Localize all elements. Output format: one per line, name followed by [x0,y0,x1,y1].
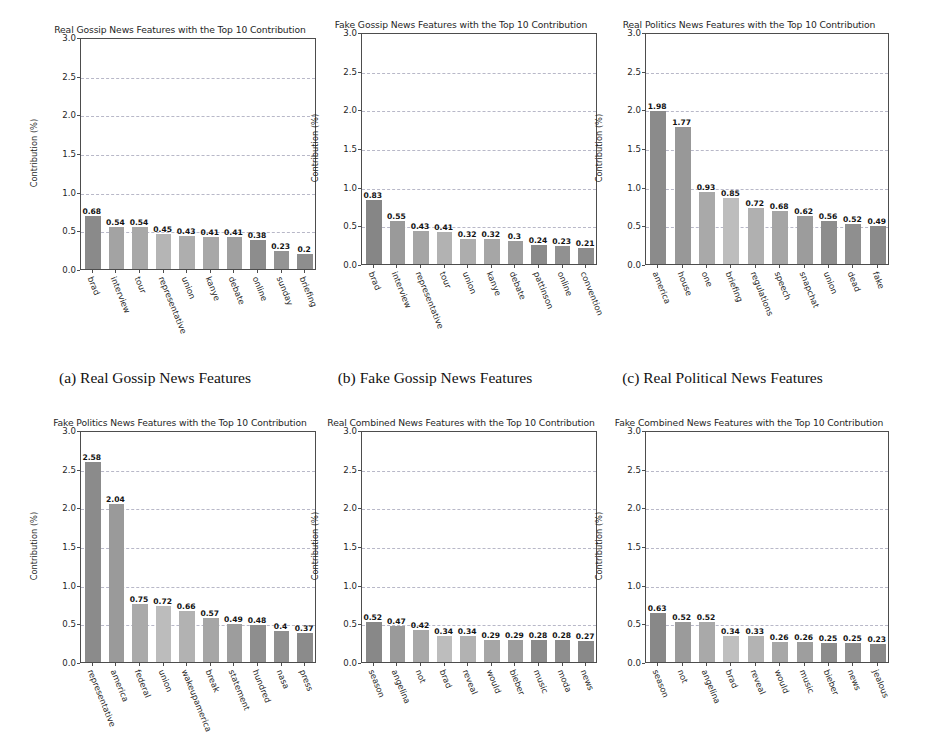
y-tick-mark [642,624,645,625]
bar-value-label: 0.32 [454,230,480,239]
y-tick-mark [358,586,361,587]
bar [85,462,101,662]
bar-value-label: 0.54 [102,218,128,227]
bar-value-label: 0.27 [572,632,598,641]
bar [460,239,476,264]
x-tick-label: jealous [871,668,880,672]
y-tick-label: 3.0 [52,426,76,436]
x-tick-mark [877,265,878,268]
x-tick-label: statement [227,668,236,672]
y-tick-mark [77,115,80,116]
bar [723,636,739,662]
chart-title: Real Combined News Features with the Top… [317,417,605,428]
y-tick-label: 0.0 [617,260,641,270]
y-tick-label: 1.5 [333,144,357,154]
y-axis-label: Contribution (%) [594,98,604,198]
y-tick-mark [77,231,80,232]
x-tick-mark [657,265,658,268]
figure-grid: Real Gossip News Features with the Top 1… [0,0,930,739]
y-tick-label: 0.0 [52,658,76,668]
x-tick-mark [538,265,539,268]
bar-value-label: 0.57 [197,609,223,618]
bar [650,111,666,264]
x-tick-mark [163,663,164,666]
bar [250,625,266,662]
y-axis-label: Contribution (%) [310,496,320,596]
x-tick-label: interview [390,270,399,274]
x-tick-label: convention [579,270,588,274]
y-tick-label: 1.5 [617,542,641,552]
y-tick-label: 1.5 [52,149,76,159]
y-tick-label: 1.5 [52,542,76,552]
bar-value-label: 0.25 [839,634,865,643]
y-tick-mark [77,270,80,271]
bar [437,232,453,264]
x-tick-label: music [797,668,806,672]
y-tick-label: 2.0 [617,105,641,115]
x-tick-label: sunday [274,275,283,279]
bar-value-label: 0.52 [693,613,719,622]
y-tick-label: 3.0 [333,28,357,38]
x-tick-label: union [180,275,189,279]
bar-value-label: 0.52 [839,215,865,224]
y-tick-label: 0.0 [333,260,357,270]
y-tick-mark [77,193,80,194]
y-tick-label: 1.0 [333,581,357,591]
chart-title: Fake Combined News Features with the Top… [601,417,897,428]
chart-title: Fake Politics News Features with the Top… [36,417,324,428]
chart-panel-e: Real Combined News Features with the Top… [317,417,605,737]
x-tick-label: briefing [724,270,733,274]
x-tick-mark [585,663,586,666]
bar-value-label: 0.54 [126,218,152,227]
y-tick-label: 0.5 [52,619,76,629]
chart-title: Real Politics News Features with the Top… [601,19,897,30]
y-tick-mark [642,149,645,150]
y-tick-label: 1.0 [617,581,641,591]
gridline [362,509,596,510]
bar [797,216,813,264]
y-tick-label: 3.0 [617,28,641,38]
bar [797,642,813,662]
bar-value-label: 0.34 [431,627,457,636]
x-tick-label: speech [773,270,782,274]
x-tick-mark [682,265,683,268]
gridline [81,78,315,79]
bar-value-label: 0.26 [766,633,792,642]
bar [203,618,219,662]
bar [675,127,691,264]
bar [748,208,764,264]
y-tick-mark [77,431,80,432]
bar-value-label: 0.33 [742,627,768,636]
bar [772,642,788,662]
y-tick-label: 1.0 [333,183,357,193]
bar [109,227,125,269]
x-tick-label: news [846,668,855,672]
bar [484,640,500,662]
y-tick-mark [77,586,80,587]
bar [650,613,666,662]
x-tick-mark [304,663,305,666]
y-axis-label: Contribution (%) [29,103,39,203]
y-axis-label: Contribution (%) [310,98,320,198]
y-tick-label: 2.0 [333,503,357,513]
y-tick-label: 1.5 [333,542,357,552]
x-tick-label: bieber [822,668,831,672]
y-tick-mark [358,431,361,432]
y-tick-mark [358,624,361,625]
y-axis-label: Contribution (%) [594,496,604,596]
bar-value-label: 0.34 [454,627,480,636]
y-tick-label: 2.0 [52,503,76,513]
bar [109,504,125,662]
bar-value-label: 0.38 [244,231,270,240]
x-tick-mark [706,663,707,666]
x-tick-label: debate [227,275,236,279]
x-tick-mark [682,663,683,666]
bar-value-label: 0.85 [717,189,743,198]
y-tick-label: 2.5 [52,465,76,475]
chart-panel-c: Real Politics News Features with the Top… [601,19,897,354]
bar-value-label: 0.55 [383,212,409,221]
bar-value-label: 0.34 [717,627,743,636]
x-tick-mark [396,265,397,268]
y-tick-mark [358,547,361,548]
bar [772,211,788,264]
